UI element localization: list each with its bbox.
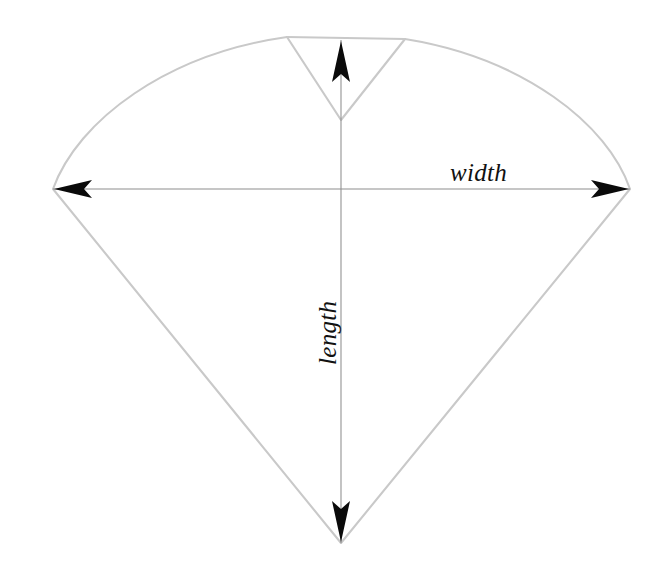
figure-canvas: width length [0,0,665,578]
lower-left-edge [53,189,341,543]
top-edge [287,37,405,39]
width-label: width [450,159,507,186]
leaf-dimension-diagram: width length [0,0,665,578]
length-label: length [314,301,341,365]
upper-right-arc [405,39,630,189]
lower-right-edge [341,189,630,543]
central-notch [287,37,405,120]
upper-left-arc [53,37,287,189]
